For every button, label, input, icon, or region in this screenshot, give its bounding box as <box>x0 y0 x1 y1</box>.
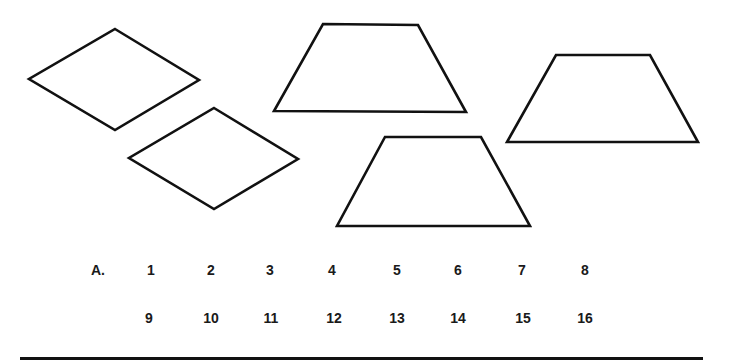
answer-number: 14 <box>450 310 466 326</box>
trapezoid-shape-1 <box>274 24 466 112</box>
answer-number: 3 <box>266 262 274 278</box>
trapezoid-shape-3 <box>507 55 698 142</box>
rhombus-shape-2 <box>129 108 298 209</box>
answer-number: 7 <box>518 262 526 278</box>
answer-number: 6 <box>454 262 462 278</box>
answer-number: 10 <box>203 310 219 326</box>
answer-number: 8 <box>581 262 589 278</box>
rhombus-shape-1 <box>29 29 199 130</box>
answer-number: 11 <box>264 310 279 326</box>
answer-number: 9 <box>145 310 153 326</box>
answer-number: 2 <box>207 262 215 278</box>
answer-number: 4 <box>328 262 336 278</box>
answer-prefix: A. <box>91 262 105 278</box>
answer-number: 13 <box>389 310 405 326</box>
answer-number: 1 <box>147 262 155 278</box>
answer-number: 5 <box>393 262 401 278</box>
answer-number: 12 <box>326 310 342 326</box>
answer-number: 16 <box>577 310 593 326</box>
answer-number: 15 <box>515 310 531 326</box>
trapezoid-shape-2 <box>337 137 530 226</box>
shapes-figure <box>0 0 730 360</box>
